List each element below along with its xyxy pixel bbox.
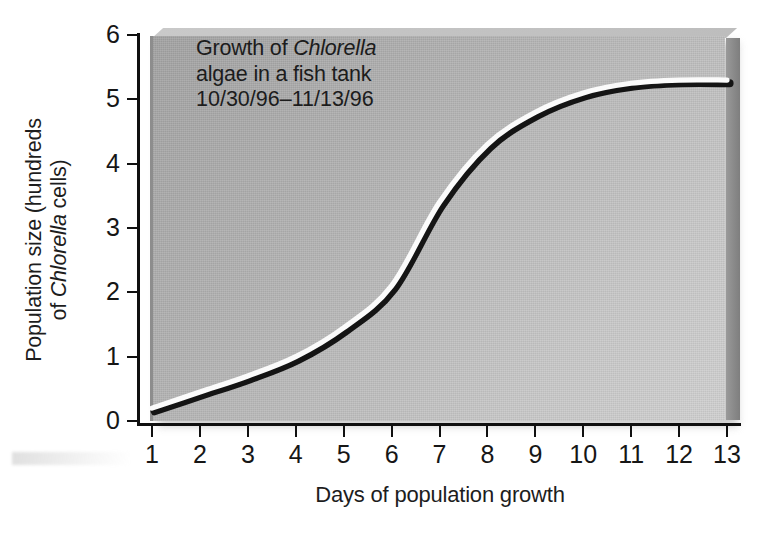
- scan-artifact: [12, 452, 130, 465]
- curve-shadow-path: [155, 83, 730, 411]
- figure-root: Growth of Chlorellaalgae in a fish tank1…: [0, 0, 781, 535]
- curve-line-path: [152, 80, 727, 408]
